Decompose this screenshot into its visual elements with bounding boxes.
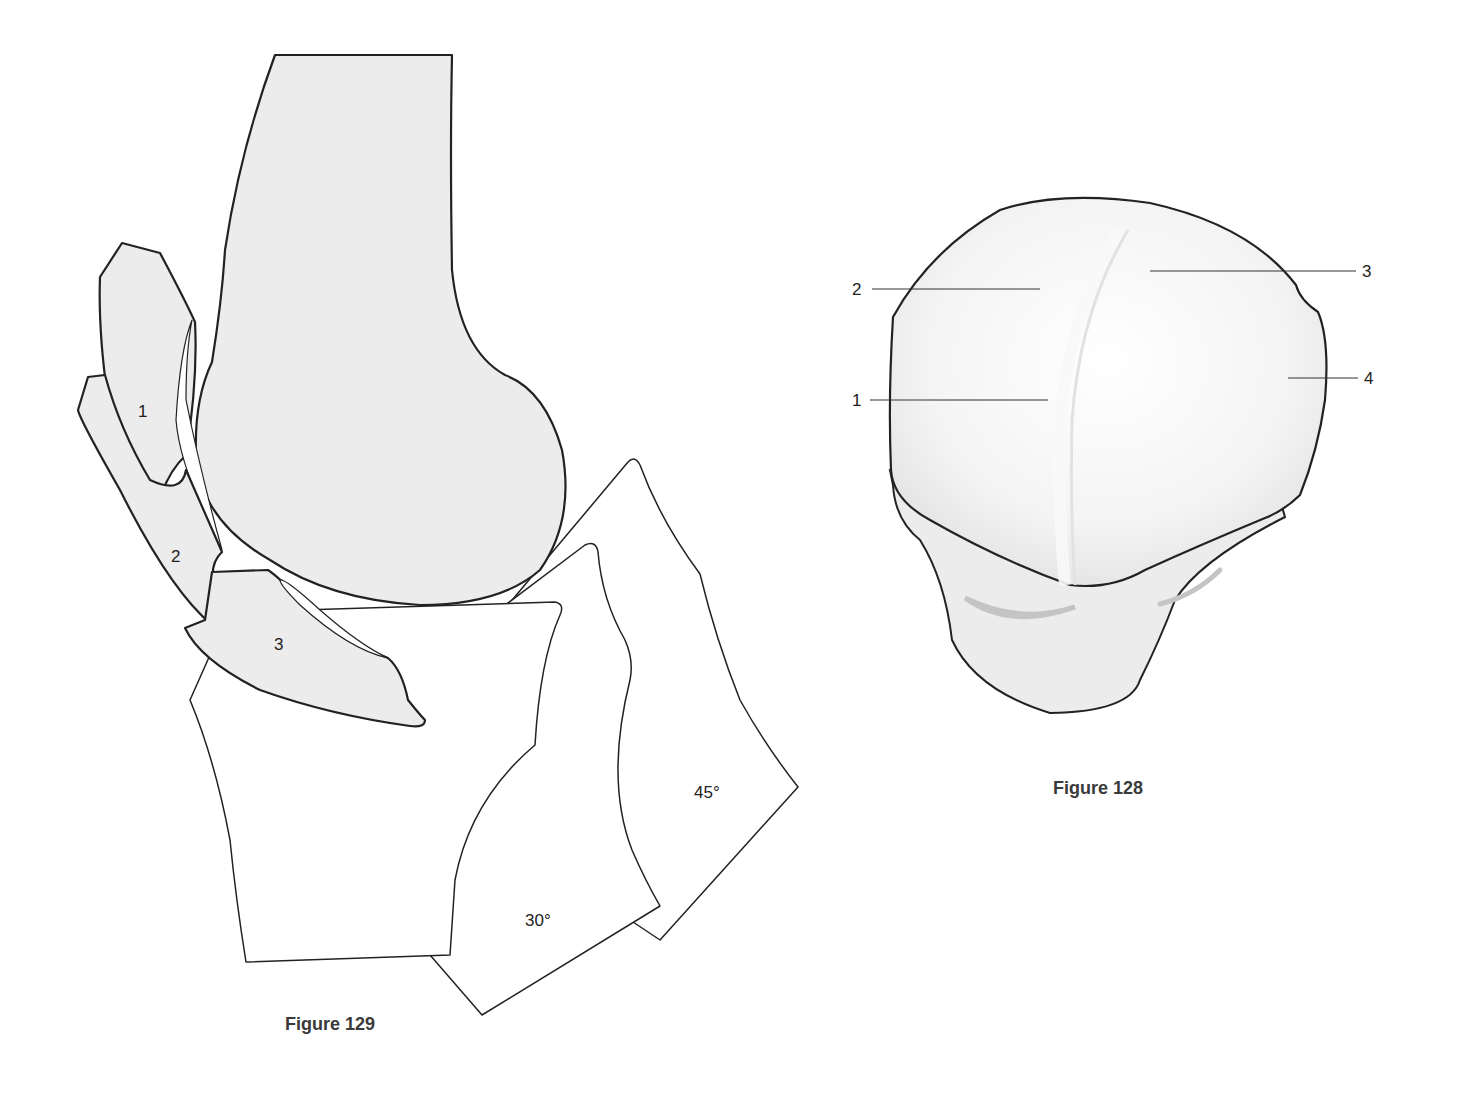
facet-label-2: 2 bbox=[852, 281, 861, 298]
figure-128-caption: Figure 128 bbox=[1053, 778, 1143, 799]
figure-128-drawing bbox=[0, 0, 1458, 1094]
facet-label-1: 1 bbox=[852, 392, 861, 409]
facet-label-3: 3 bbox=[1362, 263, 1371, 280]
facet-label-4: 4 bbox=[1364, 370, 1373, 387]
